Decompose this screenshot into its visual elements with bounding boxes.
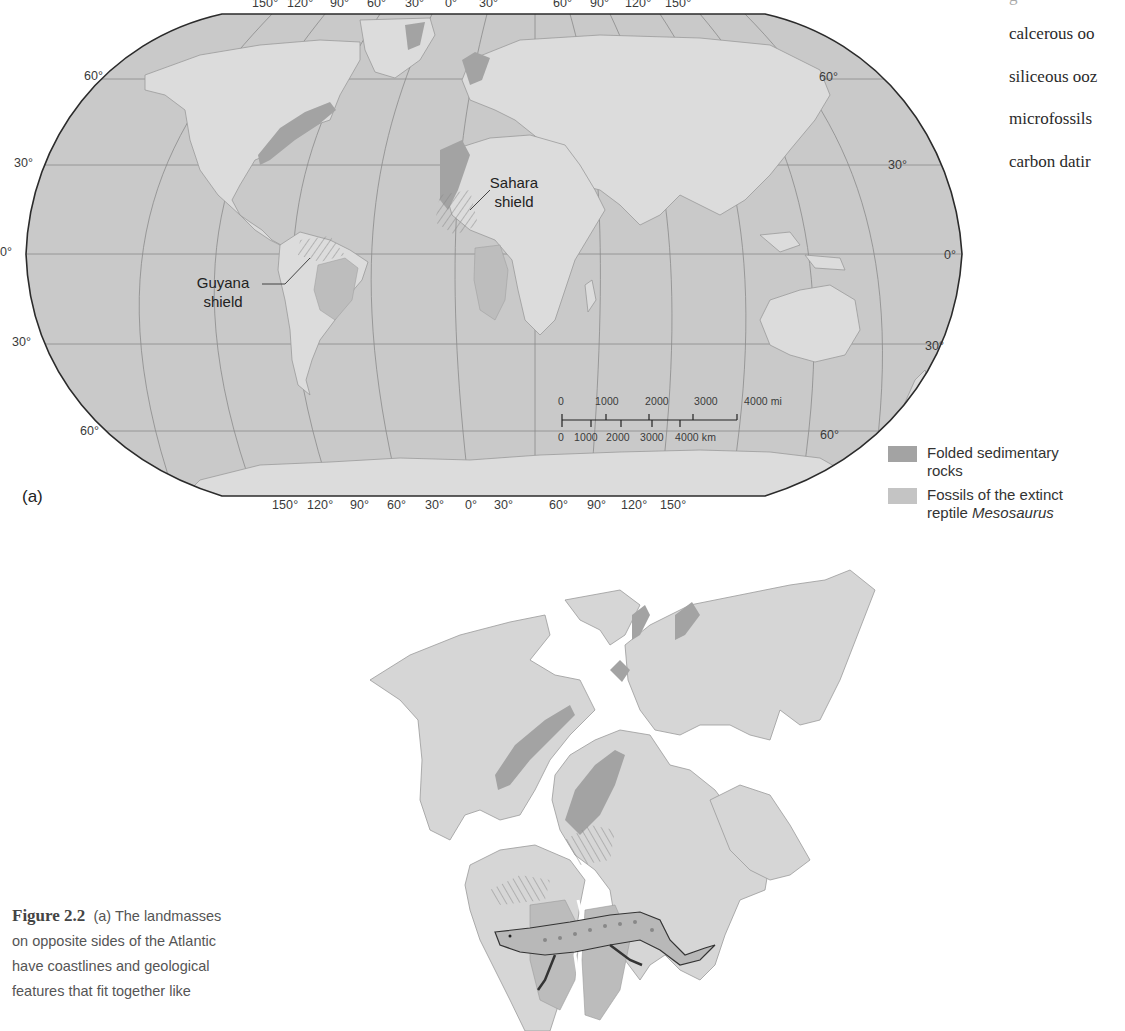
sahara-shield-label-line: shield: [484, 192, 544, 211]
sahara-shield-label: Sahara shield: [484, 173, 544, 211]
pangaea-map-b: [370, 560, 890, 1031]
latitude-label-left: 60°: [84, 69, 103, 83]
longitude-tick-top: 120°: [625, 0, 651, 10]
longitude-tick-top: 0°: [445, 0, 457, 10]
panel-label-a: (a): [22, 487, 43, 507]
longitude-tick-top: 150°: [252, 0, 278, 10]
scale-mi-label: 1000: [595, 395, 619, 407]
longitude-tick-bottom: 150°: [660, 498, 686, 512]
latitude-label-right: 30°: [925, 339, 944, 353]
guyana-shield-label-line: Guyana: [188, 273, 258, 292]
figure-caption: Figure 2.2 (a) The landmasses on opposit…: [12, 903, 342, 1004]
glossary-item: microfossils: [1009, 109, 1092, 129]
longitude-tick-bottom: 30°: [494, 498, 513, 512]
scale-mi-label: 2000: [645, 395, 669, 407]
species-name: Mesosaurus: [972, 504, 1054, 521]
longitude-tick-top: 90°: [330, 0, 349, 10]
legend-label-line: rocks: [927, 462, 1125, 480]
latitude-label-left: 60°: [80, 424, 99, 438]
caption-line: Figure 2.2 (a) The landmasses: [12, 903, 342, 929]
caption-text: (a) The landmasses: [93, 908, 221, 924]
legend-label-prefix: reptile: [927, 504, 972, 521]
longitude-tick-bottom: 60°: [549, 498, 568, 512]
legend-label-line: Fossils of the extinct: [927, 486, 1125, 504]
longitude-tick-bottom: 30°: [425, 498, 444, 512]
longitude-tick-top: 150°: [665, 0, 691, 10]
glossary-clipped-top: g: [1009, 0, 1018, 6]
latitude-label-right: 0°: [944, 248, 956, 262]
caption-line: features that fit together like: [12, 979, 342, 1004]
longitude-tick-bottom: 120°: [621, 498, 647, 512]
latitude-label-left: 30°: [12, 335, 31, 349]
latitude-label-right: 60°: [820, 428, 839, 442]
legend-label: Folded sedimentary rocks: [927, 444, 1125, 480]
world-map-a: 150° 120° 90° 60° 30° 0° 30° 60° 90° 120…: [0, 0, 1000, 520]
legend-label: Fossils of the extinct reptile Mesosauru…: [927, 486, 1125, 522]
caption-line: have coastlines and geological: [12, 954, 342, 979]
glossary-item: siliceous ooz: [1009, 67, 1097, 87]
pangaea-map-graphic: [370, 560, 890, 1031]
longitude-tick-bottom: 60°: [387, 498, 406, 512]
guyana-shield-label: Guyana shield: [188, 273, 258, 311]
longitude-tick-bottom: 120°: [307, 498, 333, 512]
scale-km-label: 4000 km: [675, 431, 716, 443]
longitude-tick-bottom: 90°: [350, 498, 369, 512]
sahara-shield-label-line: Sahara: [484, 173, 544, 192]
longitude-tick-top: 90°: [590, 0, 609, 10]
longitude-tick-bottom: 90°: [587, 498, 606, 512]
world-map-a-graphic: [0, 0, 1000, 520]
latitude-label-left: 0°: [0, 245, 12, 259]
longitude-tick-top: 30°: [479, 0, 498, 10]
latitude-label-right: 30°: [888, 158, 907, 172]
longitude-tick-top: 60°: [367, 0, 386, 10]
longitude-tick-bottom: 150°: [272, 498, 298, 512]
longitude-tick-top: 30°: [405, 0, 424, 10]
legend-label-line: Folded sedimentary: [927, 444, 1125, 462]
longitude-tick-bottom: 0°: [465, 498, 477, 512]
latitude-label-left: 30°: [14, 156, 33, 170]
scale-mi-label: 3000: [694, 395, 718, 407]
caption-line: on opposite sides of the Atlantic: [12, 929, 342, 954]
legend-label-line: reptile Mesosaurus: [927, 504, 1125, 522]
folded-rocks-swatch: [888, 446, 917, 462]
longitude-tick-top: 120°: [287, 0, 313, 10]
figure-number: Figure 2.2: [12, 906, 85, 925]
scale-mi-label: 4000 mi: [744, 395, 782, 407]
scale-mi-label: 0: [558, 395, 564, 407]
longitude-tick-top: 60°: [553, 0, 572, 10]
glossary-item: calcerous oo: [1009, 24, 1094, 44]
scale-km-label: 3000: [640, 431, 664, 443]
scale-km-label: 0: [558, 431, 564, 443]
guyana-shield-label-line: shield: [188, 292, 258, 311]
glossary-item: carbon datir: [1009, 152, 1091, 172]
scale-km-label: 1000: [574, 431, 598, 443]
latitude-label-right: 60°: [819, 70, 838, 84]
fossils-swatch: [888, 488, 917, 504]
scale-km-label: 2000: [606, 431, 630, 443]
